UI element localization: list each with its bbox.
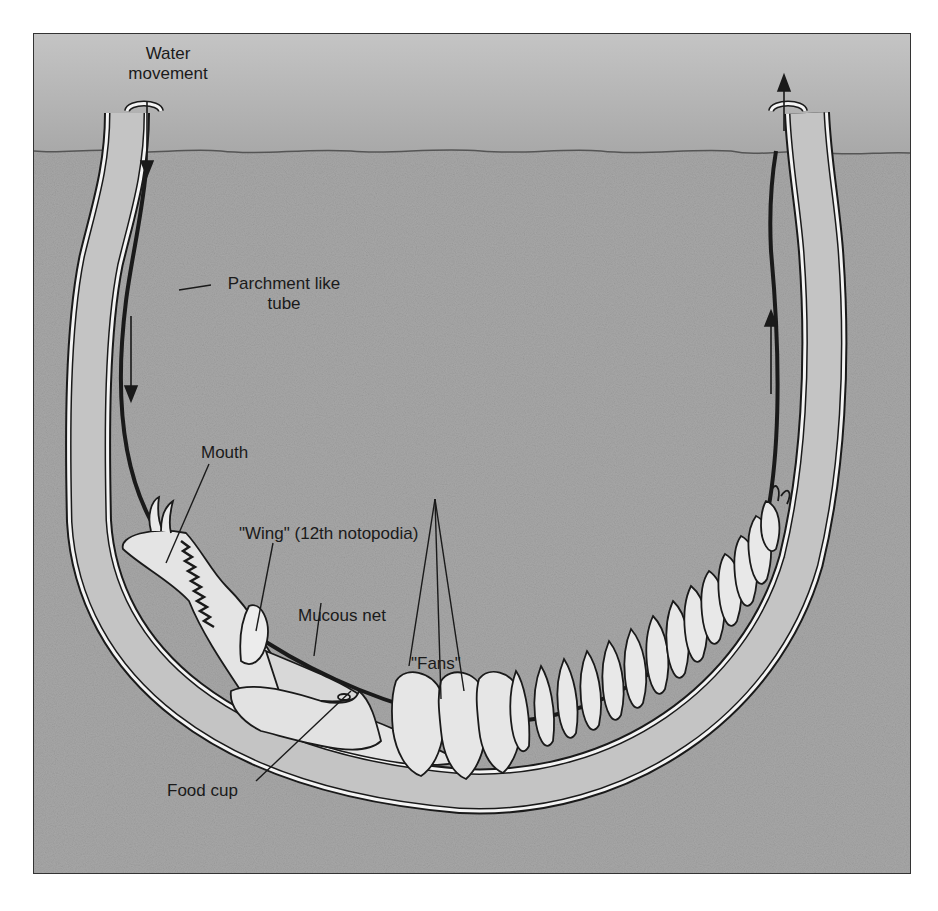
label-water-movement: Water movement [120,44,216,84]
diagram-frame: Water movement Parchment like tube Mouth… [33,33,911,874]
label-water-line2: movement [120,64,216,84]
label-wing: "Wing" (12th notopodia) [239,524,418,544]
label-parchment-tube: Parchment like tube [214,274,354,314]
label-mouth: Mouth [201,443,248,463]
label-water-line1: Water [120,44,216,64]
label-fans: "Fans" [411,654,461,674]
label-parchment-line2: tube [214,294,354,314]
label-parchment-line1: Parchment like [214,274,354,294]
label-mucous-net: Mucous net [298,606,386,626]
label-food-cup: Food cup [167,781,238,801]
burrow-illustration [34,34,911,874]
